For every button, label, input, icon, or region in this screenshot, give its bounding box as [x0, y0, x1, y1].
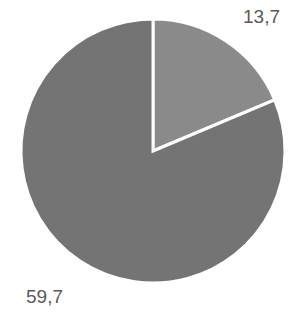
data-label-slice-1: 13,7 [243, 6, 280, 28]
data-label-slice-2: 59,7 [26, 286, 63, 308]
pie-chart-svg [0, 0, 303, 320]
